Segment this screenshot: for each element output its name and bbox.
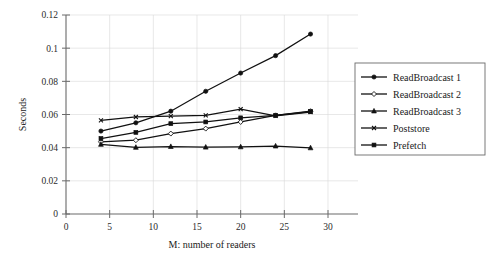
marker-filled-circle [169, 109, 173, 113]
marker-filled-circle [372, 75, 376, 79]
y-tick-label: 0.02 [41, 176, 58, 186]
marker-filled-square [169, 122, 173, 126]
x-tick-label: 25 [280, 222, 290, 232]
x-tick-label: 15 [192, 222, 202, 232]
y-tick-label: 0.1 [46, 44, 58, 54]
marker-filled-square [99, 137, 103, 141]
x-tick-label: 0 [64, 222, 69, 232]
legend-entry-label: ReadBroadcast 1 [393, 72, 461, 83]
marker-filled-circle [308, 32, 312, 36]
chart-legend: ReadBroadcast 1ReadBroadcast 2ReadBroadc… [355, 63, 485, 155]
y-tick-label: 0.12 [41, 10, 58, 20]
x-tick-label: 20 [236, 222, 246, 232]
chart-figure: 00.020.040.060.080.10.12051015202530 M: … [0, 0, 489, 263]
legend-entry-label: Poststore [393, 123, 430, 134]
legend-entry-label: ReadBroadcast 3 [393, 106, 461, 117]
marker-filled-square [372, 143, 376, 147]
x-tick-label: 10 [149, 222, 159, 232]
marker-filled-circle [99, 129, 103, 133]
marker-filled-square [274, 113, 278, 117]
legend-entry-label: ReadBroadcast 2 [393, 89, 461, 100]
marker-filled-circle [274, 54, 278, 58]
marker-filled-circle [204, 89, 208, 93]
x-tick-label: 30 [323, 222, 333, 232]
y-axis-title: Seconds [17, 98, 28, 131]
marker-filled-square [134, 131, 138, 135]
marker-filled-square [204, 120, 208, 124]
marker-filled-square [239, 116, 243, 120]
legend-entry-label: Prefetch [393, 140, 426, 151]
x-tick-label: 5 [107, 222, 112, 232]
marker-filled-circle [134, 121, 138, 125]
y-tick-label: 0.06 [41, 110, 58, 120]
x-axis-title: M: number of readers [169, 239, 256, 250]
y-tick-label: 0 [53, 209, 58, 219]
marker-filled-square [309, 110, 313, 114]
marker-filled-circle [239, 71, 243, 75]
y-tick-label: 0.04 [41, 143, 58, 153]
y-tick-label: 0.08 [41, 77, 58, 87]
line-chart-canvas: 00.020.040.060.080.10.12051015202530 M: … [0, 0, 489, 263]
